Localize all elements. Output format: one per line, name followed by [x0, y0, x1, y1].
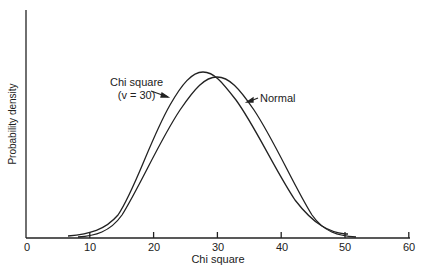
chi-square-annotation-line2: (v = 30)	[110, 89, 163, 102]
x-axis-label: Chi square	[191, 253, 244, 265]
x-tick-60: 60	[403, 241, 415, 253]
y-axis-label: Probability density	[7, 83, 18, 164]
x-tick-20: 20	[148, 241, 160, 253]
x-tick-0: 0	[24, 241, 30, 253]
normal-annotation: Normal	[260, 92, 295, 105]
chi-square-annotation-line1: Chi square	[110, 76, 163, 89]
chart-canvas	[0, 0, 430, 274]
x-tick-40: 40	[276, 241, 288, 253]
x-tick-50: 50	[339, 241, 351, 253]
x-tick-30: 30	[212, 241, 224, 253]
chi-square-annotation: Chi square (v = 30)	[110, 76, 163, 102]
x-tick-10: 10	[84, 241, 96, 253]
